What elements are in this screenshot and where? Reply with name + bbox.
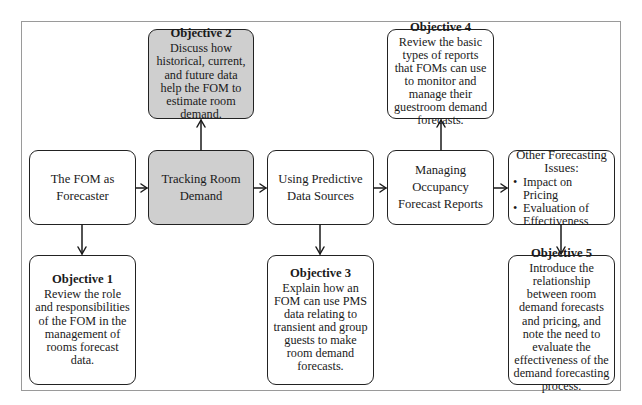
arrow-up-icon <box>197 120 205 150</box>
arrow-right-icon <box>374 184 386 192</box>
arrow-right-icon <box>254 184 266 192</box>
connector-arrows <box>0 0 642 405</box>
arrow-down-icon <box>78 225 86 254</box>
arrow-right-icon <box>494 184 507 192</box>
arrow-right-icon <box>136 184 147 192</box>
arrow-down-icon <box>557 225 565 254</box>
arrow-down-icon <box>316 225 324 254</box>
arrow-up-icon <box>437 120 445 150</box>
